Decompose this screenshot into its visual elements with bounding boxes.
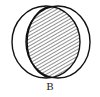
diagram-label: B: [0, 81, 100, 92]
